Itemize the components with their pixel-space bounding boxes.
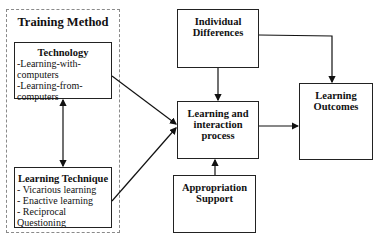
learning-interaction-title-1: Learning and xyxy=(178,108,258,119)
technology-title: Technology xyxy=(15,47,111,58)
arrow-technology-process xyxy=(112,76,176,124)
learning-outcomes-title-2: Outcomes xyxy=(300,101,372,112)
learning-technique-item: - Vicarious learning xyxy=(17,184,111,195)
arrow-technique-process xyxy=(112,128,176,201)
individual-differences-title-1: Individual xyxy=(178,16,258,27)
arrow-differences-outcomes xyxy=(259,35,332,82)
learning-technique-node: Learning Technique - Vicarious learning … xyxy=(14,167,112,228)
learning-interaction-title-3: process xyxy=(178,130,258,141)
appropriation-support-title-2: Support xyxy=(174,193,255,204)
learning-interaction-title-2: interaction xyxy=(178,119,258,130)
learning-interaction-node: Learning and interaction process xyxy=(177,101,259,159)
learning-technique-items: - Vicarious learning - Enactive learning… xyxy=(15,184,111,228)
learning-outcomes-title-1: Learning xyxy=(300,90,372,101)
technology-item: computers xyxy=(17,69,111,80)
individual-differences-node: Individual Differences xyxy=(177,9,259,68)
appropriation-support-title-1: Appropriation xyxy=(174,182,255,193)
technology-item: -Learning-with- xyxy=(17,58,111,69)
learning-technique-title: Learning Technique xyxy=(15,173,111,184)
learning-technique-item: - Reciprocal xyxy=(17,206,111,217)
individual-differences-title-2: Differences xyxy=(178,27,258,38)
learning-technique-item: Questioning xyxy=(17,217,111,228)
training-method-title: Training Method xyxy=(7,15,119,29)
technology-node: Technology -Learning-with- computers -Le… xyxy=(14,42,112,99)
technology-items: -Learning-with- computers -Learning-from… xyxy=(15,58,111,102)
technology-item: -Learning-from- xyxy=(17,80,111,91)
learning-technique-item: - Enactive learning xyxy=(17,195,111,206)
learning-outcomes-node: Learning Outcomes xyxy=(299,83,373,160)
appropriation-support-node: Appropriation Support xyxy=(173,175,256,233)
technology-item: computers xyxy=(17,91,111,102)
